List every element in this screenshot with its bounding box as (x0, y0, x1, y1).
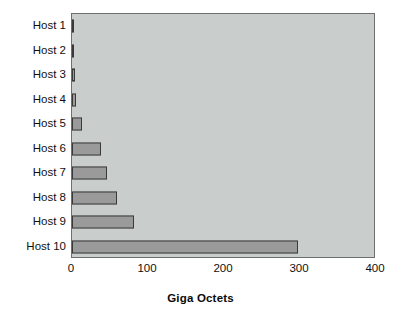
bar-row (72, 14, 374, 39)
bar-row (72, 88, 374, 113)
y-axis-tick-label: Host 4 (0, 87, 66, 112)
bar (72, 191, 117, 204)
bar (72, 142, 101, 155)
bar-row (72, 186, 374, 211)
y-axis-tick-label: Host 3 (0, 62, 66, 87)
x-axis-title: Giga Octets (0, 292, 401, 304)
bar-row (72, 137, 374, 162)
y-axis-tick-label: Host 5 (0, 111, 66, 136)
bar (72, 20, 74, 33)
bar (72, 167, 107, 180)
y-axis-tick-label: Host 1 (0, 13, 66, 38)
x-axis-tick-label: 0 (68, 262, 74, 274)
bars-layer (72, 14, 374, 257)
bar-chart-figure: Host 1Host 2Host 3Host 4Host 5Host 6Host… (0, 0, 401, 328)
bar (72, 44, 74, 57)
bar (72, 216, 134, 229)
bar (72, 69, 75, 82)
x-axis-tick-label: 100 (137, 262, 156, 274)
plot-area (71, 13, 375, 258)
bar-row (72, 235, 374, 260)
bar (72, 240, 298, 253)
y-axis-tick-label: Host 6 (0, 136, 66, 161)
bar (72, 93, 76, 106)
bar-row (72, 210, 374, 235)
bar (72, 118, 82, 131)
y-axis-tick-label: Host 7 (0, 160, 66, 185)
y-axis-label-group: Host 1Host 2Host 3Host 4Host 5Host 6Host… (0, 13, 66, 258)
y-axis-tick-label: Host 2 (0, 38, 66, 63)
bar-row (72, 39, 374, 64)
x-axis-tick-label: 200 (213, 262, 232, 274)
bar-row (72, 112, 374, 137)
x-axis-tick-label-group: 0100200300400 (0, 262, 401, 278)
y-axis-tick-label: Host 8 (0, 185, 66, 210)
y-axis-tick-label: Host 9 (0, 209, 66, 234)
bar-row (72, 161, 374, 186)
y-axis-tick-label: Host 10 (0, 234, 66, 259)
bar-row (72, 63, 374, 88)
x-axis-tick-label: 300 (289, 262, 308, 274)
x-axis-tick-label: 400 (365, 262, 384, 274)
